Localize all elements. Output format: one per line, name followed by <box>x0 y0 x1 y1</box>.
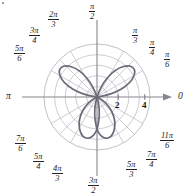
angle-label-pi-over-3: π 3 <box>132 26 138 44</box>
axis-label-pi: π <box>6 92 11 102</box>
angle-label-11pi-over-6: 11π 6 <box>160 131 174 149</box>
angle-label-pi-over-6: π 6 <box>164 50 170 68</box>
radial-tick-label-4: 4 <box>142 101 147 110</box>
angle-label-5pi-over-4: 5π 4 <box>33 152 44 170</box>
angle-label-7pi-over-6: 7π 6 <box>15 134 26 152</box>
angle-label-4pi-over-3: 4π 3 <box>52 164 63 182</box>
axis-label-zero: 0 <box>178 92 183 102</box>
angle-label-5pi-over-3: 5π 3 <box>126 160 137 178</box>
angle-label-pi-over-4: π 4 <box>149 38 155 56</box>
radial-tick-label-2: 2 <box>115 101 120 110</box>
polar-plot-figure: 2 4 π 0 π 2 2π 3 3π 4 5π 6 π 3 <box>0 0 185 194</box>
angle-label-3pi-over-2: 3π 2 <box>88 176 99 194</box>
angle-label-7pi-over-4: 7π 4 <box>146 150 157 168</box>
polar-grid-and-curve <box>0 0 185 194</box>
angle-label-3pi-over-4: 3π 4 <box>29 26 40 44</box>
angle-label-2pi-over-3: 2π 3 <box>48 10 59 28</box>
angle-label-5pi-over-6: 5π 6 <box>14 44 25 62</box>
angle-label-pi-over-2: π 2 <box>89 2 95 20</box>
